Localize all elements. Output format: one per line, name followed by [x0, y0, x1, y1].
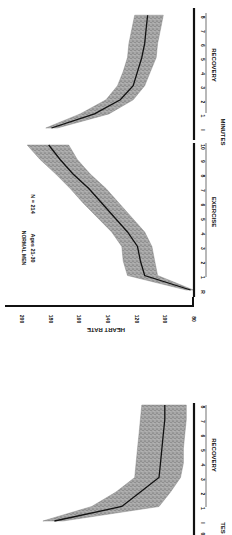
recovery-2-tick-label: 6	[200, 435, 206, 438]
exercise-tick-label: R	[200, 290, 206, 294]
y-tick-label: 140	[105, 315, 111, 324]
annotation-ages: Ages 21-30	[30, 233, 36, 262]
exercise-tick-label: 7	[200, 189, 206, 192]
y-tick-label: 100	[162, 315, 168, 324]
recovery-tick-label: 4	[200, 72, 206, 75]
recovery-2-tick-label: 4	[200, 464, 206, 467]
exercise-tick-label: 10	[200, 144, 206, 150]
exercise-tick-label: 1	[200, 276, 206, 279]
recovery-tick-label: 5	[200, 58, 206, 61]
recovery-tick-label: 3	[200, 86, 206, 89]
exercise-tick-label: 5	[200, 218, 206, 221]
y-tick-label: 120	[134, 315, 140, 324]
minutes-label-partial: TES	[220, 522, 226, 534]
y-tick-label: 80	[191, 316, 197, 322]
figure-2: I123456780RECOVERYTES	[43, 403, 226, 535]
exercise-tick-label: 4	[200, 233, 206, 236]
recovery-tick-label: 6	[200, 44, 206, 47]
figure-1: 80100120140160180200HEART RATER123456789…	[5, 8, 226, 333]
exercise-tick-label: 3	[200, 247, 206, 250]
recovery-2-tick-label: 2	[200, 493, 206, 496]
recovery-2-tick-label: 3	[200, 478, 206, 481]
recovery-2-tick-label: 7	[200, 420, 206, 423]
heart-rate-chart: 80100120140160180200HEART RATER123456789…	[0, 0, 232, 535]
annotation-n: N = 214	[30, 194, 36, 214]
chart-figure: 80100120140160180200HEART RATER123456789…	[0, 0, 232, 535]
recovery-2-label: RECOVERY	[211, 438, 217, 471]
exercise-tick-label: 6	[200, 204, 206, 207]
recovery-2-tick-label: 8	[200, 406, 206, 409]
exercise-tick-label: 9	[200, 160, 206, 163]
y-tick-label: 180	[48, 315, 54, 324]
exercise-band	[27, 145, 193, 290]
exercise-tick-label: 2	[200, 262, 206, 265]
recovery-label: RECOVERY	[211, 48, 217, 81]
minutes-label: MINUTES	[220, 119, 226, 146]
y-axis-title: HEART RATE	[87, 327, 125, 333]
recovery-tick-label: 7	[200, 30, 206, 33]
y-tick-label: 200	[19, 315, 25, 324]
recovery-2-tick-label: 5	[200, 449, 206, 452]
recovery-2-tick-label: I	[200, 522, 206, 524]
exercise-tick-label: 8	[200, 175, 206, 178]
recovery-tick-label: 1	[200, 115, 206, 118]
annotation-group: NORMAL MEN	[21, 231, 27, 266]
recovery-2-tick-label: 1	[200, 507, 206, 510]
recovery-tick-label: I	[200, 129, 206, 131]
exercise-label: EXERCISE	[211, 197, 217, 227]
recovery-tick-label: 2	[200, 100, 206, 103]
recovery-tick-label: 8	[200, 16, 206, 19]
y-tick-label: 160	[76, 315, 82, 324]
